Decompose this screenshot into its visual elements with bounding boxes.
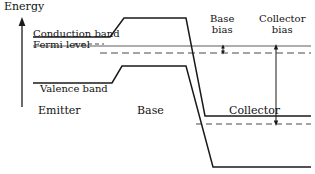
base-bias-label: Base bias [210,14,234,35]
region-label-collector: Collector [229,105,280,117]
base-bias-label-line1: Base [210,14,234,25]
region-label-emitter: Emitter [38,105,81,117]
region-label-base: Base [137,105,164,117]
collector-bias-label: Collector bias [259,14,305,35]
energy-axis-arrow [19,17,26,107]
band-diagram-figure: Conduction band Energy Conduction band F… [0,0,315,174]
base-bias-label-line2: bias [210,25,234,36]
energy-axis-label: Energy [4,1,44,13]
valence-band-label: Valence band [40,84,108,95]
collector-bias-label-line2: bias [259,25,305,36]
collector-bias-label-line1: Collector [259,14,305,25]
fermi-level-label: Fermi level [33,40,90,51]
conduction-band-label: Conduction band [33,29,120,40]
